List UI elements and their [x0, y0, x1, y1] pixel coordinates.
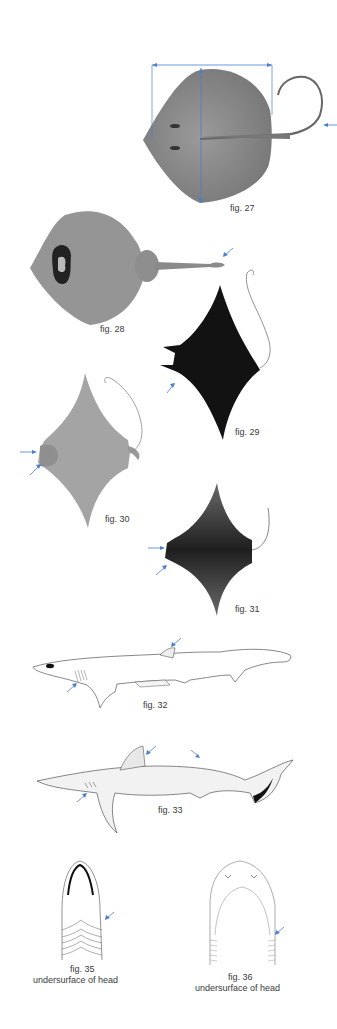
figure-36-subcaption: undersurface of head [195, 983, 280, 994]
figure-33: fig. 33 [25, 738, 305, 848]
figure-30-caption: fig. 30 [105, 514, 130, 525]
shark-illustration-32 [25, 630, 305, 730]
arrow-indicator [30, 466, 39, 475]
figure-27: fig. 27 [140, 55, 337, 220]
figure-35-caption: fig. 35 [70, 964, 95, 975]
figure-35-subcaption: undersurface of head [33, 975, 118, 986]
shark-illustration-33 [25, 738, 305, 848]
figure-29-caption: fig. 29 [235, 427, 260, 438]
figure-36: fig. 36 undersurface of head [195, 855, 335, 1015]
arrow-indicator [156, 567, 165, 575]
stingray-illustration-27 [140, 55, 337, 220]
figure-28-caption: fig. 28 [100, 324, 125, 335]
figure-31: fig. 31 [140, 478, 290, 618]
figure-36-caption: fig. 36 [228, 972, 253, 983]
manta-illustration-29 [155, 265, 290, 445]
figure-32: fig. 32 [25, 630, 305, 730]
figure-29: fig. 29 [155, 265, 290, 445]
eagle-ray-illustration-31 [140, 478, 290, 618]
figure-33-caption: fig. 33 [158, 805, 183, 816]
figure-35: fig. 35 undersurface of head [25, 855, 165, 1015]
figure-31-caption: fig. 31 [235, 604, 260, 615]
head-underside-illustration-35 [25, 855, 165, 1015]
figure-32-caption: fig. 32 [143, 700, 168, 711]
